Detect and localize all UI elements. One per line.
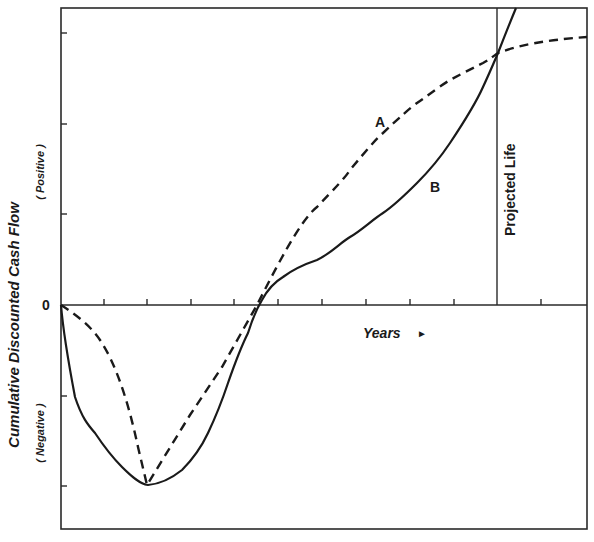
series-a-curve bbox=[61, 37, 587, 485]
y-axis-title: Cumulative Discounted Cash Flow bbox=[5, 201, 22, 448]
series-b-label: B bbox=[430, 179, 440, 195]
negative-region-label: ( Negative ) bbox=[34, 403, 46, 463]
positive-region-label: ( Positive ) bbox=[34, 144, 46, 200]
cash-flow-diagram: A B 0 Years ► Projected Life Cumulative … bbox=[0, 0, 594, 542]
x-axis-title: Years bbox=[363, 325, 401, 341]
series-a-label: A bbox=[375, 114, 385, 130]
x-axis-arrow-icon: ► bbox=[417, 328, 427, 339]
projected-life-label: Projected Life bbox=[502, 143, 518, 236]
x-ticks bbox=[104, 299, 541, 305]
y-ticks bbox=[61, 33, 67, 486]
zero-label: 0 bbox=[42, 297, 50, 313]
